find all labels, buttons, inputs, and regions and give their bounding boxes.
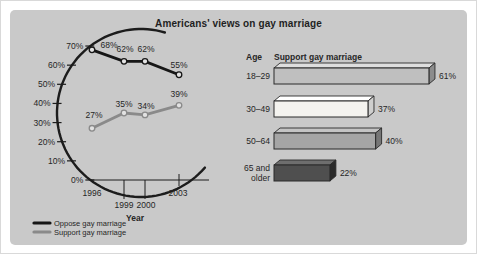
- data-point-label: 62%: [137, 44, 154, 54]
- bar-value-label: 40%: [386, 136, 403, 146]
- bar-value-label: 22%: [340, 168, 357, 178]
- bar-value-label: 61%: [439, 71, 456, 81]
- data-point-label: 34%: [137, 101, 154, 111]
- data-point-marker: [176, 72, 182, 78]
- data-point-label: 39%: [170, 89, 187, 99]
- bar-row: 61%18–29: [246, 63, 456, 84]
- year-label: 2000: [137, 200, 156, 210]
- data-point-marker: [142, 112, 148, 118]
- bar-row: 40%50–64: [246, 128, 403, 149]
- bar-front-face: [274, 133, 376, 149]
- data-point-marker: [121, 110, 127, 116]
- data-point-marker: [121, 59, 127, 65]
- y-tick-label: 30%: [34, 118, 51, 128]
- bar-top-face: [274, 128, 382, 133]
- bar-category-label: 65 and: [244, 163, 270, 173]
- figure-gay-marriage-views: Americans' views on gay marriage 70%60%5…: [0, 0, 477, 254]
- y-tick-label: 60%: [48, 60, 65, 70]
- bar-category-label: 18–29: [246, 71, 270, 81]
- bar-front-face: [274, 101, 368, 117]
- year-label: 1996: [83, 188, 102, 198]
- legend-label: Oppose gay marriage: [54, 219, 126, 228]
- year-label: 1999: [115, 200, 134, 210]
- x-axis-title: Year: [126, 213, 145, 223]
- data-point-marker: [89, 47, 95, 53]
- data-point-label: 35%: [115, 99, 132, 109]
- bar-category-label: 50–64: [246, 136, 270, 146]
- bar-category-label: older: [251, 173, 270, 183]
- bar-category-label: 30–49: [246, 104, 270, 114]
- support-line: [92, 105, 179, 128]
- bar-chart: AgeSupport gay marriage61%18–2937%30–494…: [239, 46, 474, 211]
- bar-value-label: 37%: [378, 104, 395, 114]
- bar-top-face: [274, 160, 336, 165]
- bar-top-face: [274, 96, 374, 101]
- y-tick-label: 0%: [71, 175, 84, 185]
- bar-front-face: [274, 165, 330, 181]
- data-point-marker: [89, 126, 95, 132]
- y-tick-label: 10%: [48, 156, 65, 166]
- data-point-label: 68%: [100, 40, 117, 50]
- bar-front-face: [274, 68, 429, 84]
- bar-row: 22%65 andolder: [244, 160, 357, 183]
- legend-label: Support gay marriage: [54, 228, 126, 237]
- y-tick-label: 20%: [38, 137, 55, 147]
- data-point-label: 27%: [85, 110, 102, 120]
- col-header-age: Age: [246, 52, 262, 62]
- data-point-marker: [142, 59, 148, 65]
- bar-row: 37%30–49: [246, 96, 395, 117]
- col-header-support: Support gay marriage: [274, 52, 362, 62]
- bar-top-face: [274, 63, 435, 68]
- oppose-line: [92, 50, 179, 75]
- y-tick-label: 50%: [38, 79, 55, 89]
- y-tick-label: 40%: [34, 98, 51, 108]
- year-label: 2003: [169, 188, 188, 198]
- data-point-marker: [176, 103, 182, 109]
- data-point-label: 55%: [170, 60, 187, 70]
- y-tick-label: 70%: [66, 41, 83, 51]
- line-chart: 70%60%50%40%30%20%10%0%1996199920002003Y…: [21, 26, 251, 246]
- data-point-label: 62%: [116, 44, 133, 54]
